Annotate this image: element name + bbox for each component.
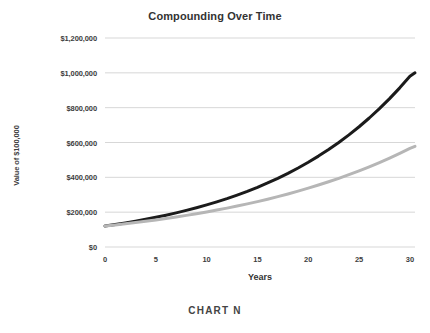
chart-figure: Compounding Over Time $0$200,000$400,000… (0, 0, 430, 333)
x-tick-label: 0 (93, 255, 117, 264)
y-tick-label: $1,000,000 (31, 69, 97, 78)
y-axis-title: Value of $100,000 (12, 111, 21, 201)
y-tick-label: $600,000 (31, 139, 97, 148)
x-tick-label: 25 (347, 255, 371, 264)
chart-caption: CHART N (0, 305, 430, 316)
x-tick-label: 20 (296, 255, 320, 264)
plot-area: $0$200,000$400,000$600,000$800,000$1,000… (0, 0, 430, 300)
x-axis-title: Years (105, 272, 415, 282)
y-tick-label: $400,000 (31, 173, 97, 182)
x-tick-label: 30 (398, 255, 422, 264)
series-line-1 (105, 73, 415, 226)
x-tick-label: 10 (195, 255, 219, 264)
y-tick-label: $0 (31, 243, 97, 252)
x-tick-label: 15 (245, 255, 269, 264)
gridlines (105, 38, 415, 247)
y-tick-label: $800,000 (31, 104, 97, 113)
series-lines (105, 73, 415, 226)
x-tick-label: 5 (144, 255, 168, 264)
y-tick-label: $200,000 (31, 208, 97, 217)
y-tick-label: $1,200,000 (31, 34, 97, 43)
